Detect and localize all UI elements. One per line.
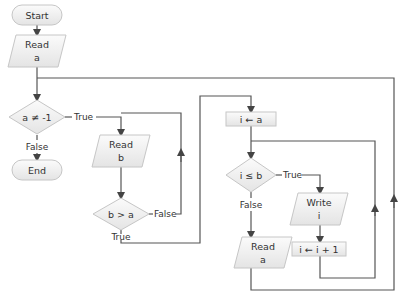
edge-cond-ib-true-write (302, 175, 320, 191)
read-b-label-2: b (118, 152, 124, 163)
start-label: Start (25, 10, 48, 21)
read-a2-label-1: Read (251, 241, 275, 252)
cond-ib-label: i ≤ b (240, 170, 263, 181)
read-b-label-1: Read (109, 139, 133, 150)
edge-cond-a-true-read-b (96, 117, 121, 133)
flowchart-canvas: Start Read a a ≠ -1 End Read b b > a i ←… (0, 0, 405, 298)
read-a2-label-2: a (260, 254, 266, 265)
cond-a-true-label: True (73, 112, 94, 122)
read-a-label-2: a (34, 52, 40, 63)
cond-a-false-label: False (26, 142, 49, 152)
cond-ib-false-label: False (240, 200, 263, 210)
cond-ib-true-label: True (282, 170, 303, 180)
cond-ba-true-label: True (110, 232, 131, 242)
inc-i-label: i ← i + 1 (299, 244, 338, 255)
cond-a-label: a ≠ -1 (22, 112, 51, 123)
write-i-label-2: i (318, 210, 321, 221)
cond-ba-label: b > a (108, 209, 134, 220)
end-label: End (28, 165, 46, 176)
cond-ba-false-label: False (154, 209, 177, 219)
assign-i-label: i ← a (240, 114, 262, 125)
read-a-label-1: Read (25, 39, 49, 50)
edge-read-a2-outer-loop (37, 78, 394, 290)
write-i-label-1: Write (306, 197, 331, 208)
